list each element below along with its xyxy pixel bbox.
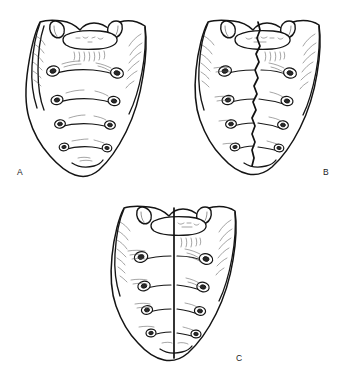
superior-articular-process-left-a bbox=[50, 21, 65, 38]
sacral-foramen-right-4-pupil-c bbox=[194, 332, 199, 336]
s1-endplate-c bbox=[151, 217, 206, 236]
sacral-foramen-right-3-pupil-c bbox=[197, 309, 203, 314]
sacral-foramen-right-2-pupil-b bbox=[284, 98, 290, 103]
sacrum-body-c bbox=[111, 206, 236, 360]
sacral-foramen-right-3-pupil-a bbox=[107, 123, 112, 127]
sacral-foramen-right-3-pupil-b bbox=[280, 123, 285, 127]
sacral-foramen-left-4-pupil-c bbox=[149, 331, 154, 335]
sacral-foramen-left-4-pupil-a bbox=[62, 145, 67, 149]
sacrum-panel-a bbox=[0, 0, 175, 190]
sacrum-panel-c bbox=[82, 186, 270, 373]
s1-endplate-a bbox=[63, 31, 117, 50]
sacral-foramen-left-3-pupil-a bbox=[57, 122, 62, 126]
sacral-foramen-left-4-pupil-b bbox=[233, 145, 238, 149]
sacral-foramen-right-4-pupil-a bbox=[105, 146, 110, 150]
sacrum-body-a bbox=[26, 20, 146, 176]
s1-endplate-b bbox=[235, 31, 290, 50]
sacral-foramen-left-2-pupil-a bbox=[54, 97, 60, 102]
sacral-foramen-right-2-pupil-c bbox=[200, 284, 206, 289]
sacrum-body-b bbox=[195, 20, 320, 174]
sacral-foramen-left-3-pupil-b bbox=[228, 122, 233, 126]
sacrum-panel-b bbox=[170, 0, 349, 190]
panel-label-c: C bbox=[236, 354, 242, 363]
sacral-foramen-left-3-pupil-c bbox=[144, 308, 150, 313]
panel-label-a: A bbox=[17, 168, 23, 177]
sacral-foramen-right-2-pupil-a bbox=[111, 98, 117, 103]
figure-canvas: A B C bbox=[0, 0, 349, 373]
superior-articular-process-left-b bbox=[221, 21, 236, 38]
sacral-foramen-left-2-pupil-b bbox=[225, 97, 231, 102]
sacral-foramen-right-4-pupil-b bbox=[277, 146, 282, 150]
panel-label-b: B bbox=[323, 168, 329, 177]
superior-articular-process-left-c bbox=[137, 207, 152, 224]
sacral-foramen-left-2-pupil-c bbox=[141, 283, 147, 288]
